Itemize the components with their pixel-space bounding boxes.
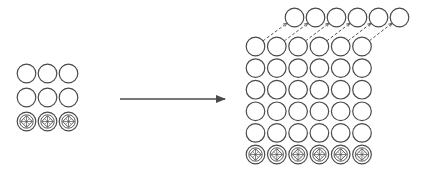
plain-circle [246, 80, 265, 99]
ornamented-circle [331, 145, 350, 164]
ornamented-circle [353, 145, 372, 164]
plain-circle [17, 88, 36, 107]
plain-circle [38, 88, 57, 107]
plain-circle [310, 59, 329, 78]
ornamented-circle [246, 145, 265, 164]
projected-circle [348, 8, 367, 27]
plain-circle [310, 124, 329, 143]
projected-circle [369, 8, 388, 27]
plain-circle [353, 59, 372, 78]
plain-circle [331, 102, 350, 121]
plain-circle [353, 80, 372, 99]
ornamented-circle [59, 112, 78, 131]
ornamented-circle [17, 112, 36, 131]
plain-circle [331, 80, 350, 99]
plain-circle [268, 59, 287, 78]
projected-circle [390, 8, 409, 27]
plain-circle [246, 59, 265, 78]
plain-circle [59, 88, 78, 107]
plain-circle [289, 59, 308, 78]
projected-circle [327, 8, 346, 27]
plain-circle [289, 37, 308, 56]
plain-circle [310, 80, 329, 99]
ornamented-circle [268, 145, 287, 164]
ornamented-circle [289, 145, 308, 164]
plain-circle [310, 37, 329, 56]
diagram-canvas [0, 0, 423, 171]
plain-circle [246, 124, 265, 143]
projected-circle [285, 8, 304, 27]
plain-circle [17, 64, 36, 83]
plain-circle [353, 102, 372, 121]
plain-circle [353, 37, 372, 56]
left-circle-grid [17, 64, 78, 131]
plain-circle [38, 64, 57, 83]
right-circle-grid [246, 37, 371, 164]
plain-circle [331, 37, 350, 56]
plain-circle [310, 102, 329, 121]
plain-circle [353, 124, 372, 143]
plain-circle [268, 124, 287, 143]
plain-circle [289, 124, 308, 143]
plain-circle [289, 80, 308, 99]
ornamented-circle [38, 112, 57, 131]
plain-circle [268, 80, 287, 99]
plain-circle [268, 37, 287, 56]
plain-circle [289, 102, 308, 121]
plain-circle [331, 59, 350, 78]
plain-circle [246, 37, 265, 56]
plain-circle [246, 102, 265, 121]
plain-circle [331, 124, 350, 143]
ornamented-circle [310, 145, 329, 164]
plain-circle [59, 64, 78, 83]
dashed-projection-lines [263, 23, 392, 41]
projected-circle [306, 8, 325, 27]
plain-circle [268, 102, 287, 121]
